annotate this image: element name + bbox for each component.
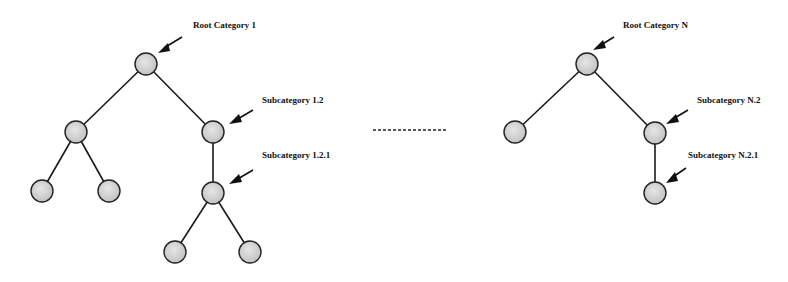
category-tree-diagram: Root Category 1 Subcategory 1.2 Subcateg…: [0, 0, 788, 282]
edge: [587, 64, 655, 133]
node-root-category-n: [576, 53, 598, 75]
arrow-icon: [229, 170, 253, 184]
edge: [515, 64, 587, 132]
label-subcategory-n-2: Subcategory N.2: [697, 95, 761, 105]
label-root-category-1: Root Category 1: [193, 20, 256, 30]
tree-root-category-n: Root Category N Subcategory N.2 Subcateg…: [504, 20, 761, 204]
node-subcategory-1-1: [65, 121, 87, 143]
tree-n-edges: [515, 64, 655, 193]
arrow-icon: [229, 110, 253, 124]
node-subcategory-1-2: [202, 121, 224, 143]
edge: [76, 64, 146, 132]
node-subcategory-n-2: [644, 122, 666, 144]
tree-root-category-1: Root Category 1 Subcategory 1.2 Subcateg…: [31, 20, 331, 263]
tree-1-arrows: [158, 37, 253, 184]
arrow-icon: [593, 37, 614, 50]
tree-1-nodes: [31, 53, 261, 263]
arrow-icon: [666, 110, 688, 124]
edge: [146, 64, 213, 132]
arrow-icon: [666, 168, 686, 183]
node-subcategory-n-2-1: [644, 182, 666, 204]
node-leaf: [239, 241, 261, 263]
node-leaf: [98, 180, 120, 202]
label-subcategory-1-2-1: Subcategory 1.2.1: [262, 150, 331, 160]
label-subcategory-n-2-1: Subcategory N.2.1: [688, 150, 759, 160]
arrow-icon: [158, 37, 182, 53]
label-root-category-n: Root Category N: [623, 20, 688, 30]
label-subcategory-1-2: Subcategory 1.2: [262, 95, 324, 105]
tree-n-arrows: [593, 37, 688, 183]
node-subcategory-n-1: [504, 121, 526, 143]
node-leaf: [164, 241, 186, 263]
node-root-category-1: [135, 53, 157, 75]
node-leaf: [31, 180, 53, 202]
node-subcategory-1-2-1: [202, 182, 224, 204]
tree-1-edges: [42, 64, 250, 252]
tree-n-nodes: [504, 53, 666, 204]
